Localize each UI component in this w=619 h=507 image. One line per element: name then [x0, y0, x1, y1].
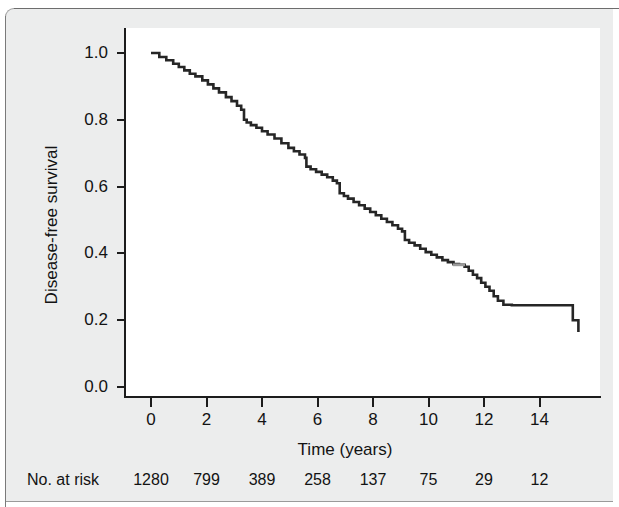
risk-table-count: 137 [345, 471, 401, 489]
risk-table-count: 29 [456, 471, 512, 489]
risk-table-count: 12 [512, 471, 568, 489]
x-axis-tick-label: 2 [187, 411, 227, 428]
x-axis-tick [150, 398, 152, 407]
y-axis-tick-label-text: 0.8 [72, 111, 108, 128]
x-axis-tick [539, 398, 541, 407]
x-axis-tick [372, 398, 374, 407]
x-axis-tick-label: 0 [131, 411, 171, 428]
risk-table-count: 75 [401, 471, 457, 489]
risk-table-count: 1280 [123, 471, 179, 489]
kaplan-meier-chart: 0.00.20.40.60.81.0 02468101214 Disease-f… [0, 0, 619, 507]
y-axis-tick-label-text: 0.2 [72, 311, 108, 328]
risk-table-count: 258 [290, 471, 346, 489]
x-axis-title: Time (years) [245, 440, 445, 460]
risk-table-count: 389 [234, 471, 290, 489]
risk-table-count: 799 [179, 471, 235, 489]
risk-table-label: No. at risk [27, 471, 99, 489]
x-axis-tick [428, 398, 430, 407]
x-axis-tick [261, 398, 263, 407]
y-axis-tick-label: 0.4 [72, 244, 124, 261]
y-axis-tick-label: 0.6 [72, 178, 124, 195]
y-axis-tick-label-text: 0.4 [72, 244, 108, 261]
y-axis-tick-label: 1.0 [72, 44, 124, 61]
x-axis-tick [483, 398, 485, 407]
y-axis-tick-label-text: 0.0 [72, 378, 108, 395]
x-axis-tick [317, 398, 319, 407]
y-axis-line [124, 28, 126, 398]
y-axis-tick-label: 0.8 [72, 111, 124, 128]
y-axis-tick-label-text: 0.6 [72, 178, 108, 195]
y-axis-title: Disease-free survival [42, 130, 62, 320]
x-axis-tick-label: 8 [353, 411, 393, 428]
y-axis-tick-label-text: 1.0 [72, 44, 108, 61]
x-axis-tick-label: 14 [520, 411, 560, 428]
x-axis-tick [206, 398, 208, 407]
x-axis-tick-label: 12 [464, 411, 504, 428]
x-axis-line [124, 396, 601, 398]
y-axis-tick-label: 0.0 [72, 378, 124, 395]
plot-area [126, 28, 600, 397]
x-axis-tick-label: 4 [242, 411, 282, 428]
x-axis-tick-label: 10 [409, 411, 449, 428]
y-axis-tick-label: 0.2 [72, 311, 124, 328]
x-axis-tick-label: 6 [298, 411, 338, 428]
